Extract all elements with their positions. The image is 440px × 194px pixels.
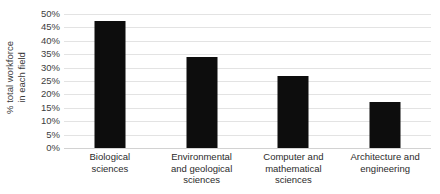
bar-slot: [339, 14, 431, 148]
y-axis-tick-label: 10%: [24, 116, 60, 126]
bar-series: [64, 14, 431, 148]
x-axis-category-label: Architecture andengineering: [339, 151, 431, 174]
y-axis-tick-label: 40%: [24, 36, 60, 46]
y-axis-tick-label: 45%: [24, 22, 60, 32]
bar-slot: [156, 14, 248, 148]
x-axis-category-label: Biologicalsciences: [64, 151, 156, 174]
x-axis-category-label-line: Architecture and: [339, 151, 431, 163]
x-axis-category-label-line: mathematical: [248, 163, 340, 175]
bar[interactable]: [370, 102, 401, 148]
x-axis-category-label-line: Biological: [64, 151, 156, 163]
x-axis-category-label-line: sciences: [64, 163, 156, 175]
bar[interactable]: [94, 21, 125, 148]
y-axis-tick-labels: 50%45%40%35%30%25%20%15%10%5%0%: [24, 14, 60, 148]
bar-slot: [248, 14, 340, 148]
x-axis-category-label: Computer andmathematicalsciences: [248, 151, 340, 186]
x-axis-category-label: Environmentaland geologicalsciences: [156, 151, 248, 186]
x-axis-category-label-line: sciences: [248, 174, 340, 186]
plot-area: [64, 14, 431, 148]
bar[interactable]: [278, 76, 309, 148]
x-axis-category-label-line: engineering: [339, 163, 431, 175]
y-axis-tick-label: 30%: [24, 63, 60, 73]
y-axis-tick-label: 25%: [24, 76, 60, 86]
y-axis-tick-label: 50%: [24, 9, 60, 19]
x-axis-category-label-line: Environmental: [156, 151, 248, 163]
bar-slot: [64, 14, 156, 148]
x-axis-category-label-line: and geological: [156, 163, 248, 175]
y-axis-title-line-1: % total workforce: [4, 41, 16, 114]
y-axis-tick-label: 35%: [24, 49, 60, 59]
bar[interactable]: [186, 57, 217, 148]
x-axis-category-label-line: sciences: [156, 174, 248, 186]
y-axis-tick-label: 0%: [24, 143, 60, 153]
x-axis-category-label-line: Computer and: [248, 151, 340, 163]
y-axis-tick-label: 5%: [24, 130, 60, 140]
y-axis-tick-label: 20%: [24, 89, 60, 99]
bar-chart: % total workforce in each field 50%45%40…: [0, 0, 440, 194]
y-axis-tick-label: 15%: [24, 103, 60, 113]
gridline: [64, 148, 431, 149]
x-axis-category-labels: BiologicalsciencesEnvironmentaland geolo…: [64, 151, 431, 194]
